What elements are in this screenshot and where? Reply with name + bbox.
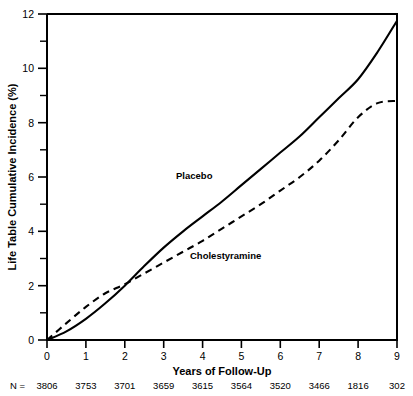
y-tick-label-10: 10 xyxy=(22,62,34,74)
x-tick-label-8: 8 xyxy=(355,350,361,362)
sample-size-row: N =3806375337013659361535643520346618163… xyxy=(10,380,405,391)
x-axis-title: Years of Follow-Up xyxy=(172,365,271,377)
sample-size-value: 3520 xyxy=(270,380,291,391)
sample-size-value: 3659 xyxy=(153,380,174,391)
sample-size-prefix: N = xyxy=(10,380,26,391)
x-tick-label-7: 7 xyxy=(316,350,322,362)
x-tick-label-1: 1 xyxy=(83,350,89,362)
x-axis-ticks xyxy=(47,340,397,348)
sample-size-value: 3615 xyxy=(192,380,213,391)
curve-label-cholestyramine: Cholestyramine xyxy=(190,250,261,261)
plot-frame xyxy=(47,14,397,340)
y-tick-label-4: 4 xyxy=(28,225,34,237)
chart-figure: 0 2 4 6 8 10 12 Life Table Cumulative In… xyxy=(0,0,413,396)
y-axis-major-ticks xyxy=(38,14,47,340)
x-axis-tick-labels: 0 1 2 3 4 5 6 7 8 9 xyxy=(44,350,400,362)
series-line-placebo xyxy=(47,21,397,340)
sample-size-value: 3701 xyxy=(114,380,135,391)
x-tick-label-0: 0 xyxy=(44,350,50,362)
y-tick-label-12: 12 xyxy=(22,8,34,20)
y-axis-tick-labels: 0 2 4 6 8 10 12 xyxy=(22,8,34,346)
y-axis-title: Life Table Cumulative Incidence (%) xyxy=(6,83,18,270)
y-tick-label-0: 0 xyxy=(28,334,34,346)
sample-size-value: 1816 xyxy=(348,380,369,391)
x-tick-label-5: 5 xyxy=(238,350,244,362)
life-table-incidence-chart: 0 2 4 6 8 10 12 Life Table Cumulative In… xyxy=(0,0,413,396)
curve-label-placebo: Placebo xyxy=(176,170,213,181)
sample-size-value: 3806 xyxy=(36,380,57,391)
x-tick-label-9: 9 xyxy=(394,350,400,362)
sample-size-value: 3466 xyxy=(309,380,330,391)
sample-size-value: 3753 xyxy=(75,380,96,391)
sample-size-value: 302 xyxy=(389,380,405,391)
y-tick-label-8: 8 xyxy=(28,117,34,129)
x-tick-label-4: 4 xyxy=(200,350,206,362)
y-tick-label-6: 6 xyxy=(28,171,34,183)
y-tick-label-2: 2 xyxy=(28,280,34,292)
x-tick-label-2: 2 xyxy=(122,350,128,362)
series-line-cholestyramine xyxy=(47,101,397,340)
x-tick-label-3: 3 xyxy=(161,350,167,362)
x-tick-label-6: 6 xyxy=(277,350,283,362)
sample-size-value: 3564 xyxy=(231,380,252,391)
